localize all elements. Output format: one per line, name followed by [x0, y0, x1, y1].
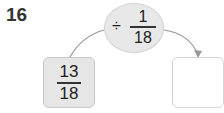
- operation-numerator: 1: [139, 8, 148, 25]
- operation-denominator: 18: [134, 29, 152, 46]
- divide-operator: ÷: [112, 17, 121, 35]
- answer-box[interactable]: [172, 57, 224, 108]
- input-denominator: 18: [60, 85, 79, 103]
- input-fraction: 13 18: [57, 63, 81, 103]
- input-numerator: 13: [60, 63, 79, 81]
- operation-fraction: 1 18: [130, 8, 156, 46]
- fraction-bar: [130, 26, 156, 28]
- problem-number: 16: [6, 4, 27, 26]
